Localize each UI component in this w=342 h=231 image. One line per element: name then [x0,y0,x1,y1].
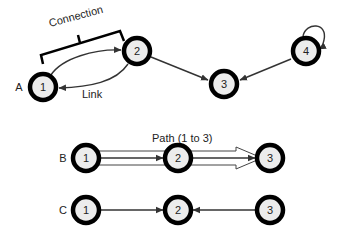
path-label: Path (1 to 3) [152,132,213,144]
edge-a-4-to-3 [240,59,291,80]
node-label: 2 [134,45,140,57]
node-label: 1 [40,81,46,93]
node-a-1: 1 [30,74,56,100]
row-label-c: C [59,204,67,216]
node-label: 2 [175,152,181,164]
node-label: 4 [303,45,309,57]
connection-bracket [41,31,124,64]
row-label-b: B [59,152,66,164]
node-c-3: 3 [257,197,283,223]
node-a-4: 4 [293,38,319,64]
node-a-2: 2 [124,38,150,64]
node-c-2: 2 [165,197,191,223]
node-label: 3 [267,204,273,216]
node-c-1: 1 [73,197,99,223]
node-label: 1 [83,152,89,164]
graph-c: C 1 2 3 [59,197,283,223]
graph-b: Path (1 to 3) B 1 2 3 [59,132,283,171]
graph-a: Connection Link A 1 2 3 4 [15,3,324,100]
network-diagram: Connection Link A 1 2 3 4 Path ( [0,0,342,231]
node-a-3: 3 [211,71,237,97]
connection-label: Connection [47,3,104,29]
node-label: 1 [83,204,89,216]
node-b-3: 3 [257,145,283,171]
edge-a-2-to-3 [151,57,208,80]
node-b-2: 2 [165,145,191,171]
row-label-a: A [15,81,23,93]
edge-a-2-to-1 [59,64,128,88]
node-label: 2 [175,204,181,216]
node-b-1: 1 [73,145,99,171]
node-label: 3 [267,152,273,164]
node-label: 3 [221,78,227,90]
edge-a-1-to-2 [51,50,121,75]
link-label: Link [82,88,103,100]
